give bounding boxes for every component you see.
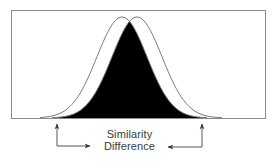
similarity-label: Similarity bbox=[0, 128, 259, 140]
difference-label: Difference bbox=[0, 140, 259, 152]
